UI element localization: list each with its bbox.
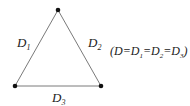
label-d1: D1 — [17, 36, 30, 52]
vertex-top — [56, 8, 61, 13]
label-d3-main: D — [52, 90, 61, 105]
vertex-bottom-right — [99, 84, 104, 89]
label-d1-main: D — [17, 35, 26, 50]
triangle-diagram: D1 D2 D3 (D=D1=D2=D3) — [0, 0, 190, 106]
label-d3: D3 — [52, 91, 65, 106]
label-d2-sub: 2 — [97, 43, 101, 52]
label-d2: D2 — [88, 36, 101, 52]
equality-formula: (D=D1=D2=D3) — [110, 45, 187, 60]
formula-eq-2: =D — [163, 44, 180, 58]
formula-close: ) — [183, 44, 187, 58]
label-d1-sub: 1 — [26, 43, 30, 52]
formula-eq-1: =D — [143, 44, 160, 58]
vertex-bottom-left — [13, 84, 18, 89]
label-d3-sub: 3 — [61, 98, 65, 106]
formula-open: (D=D — [110, 44, 139, 58]
label-d2-main: D — [88, 35, 97, 50]
